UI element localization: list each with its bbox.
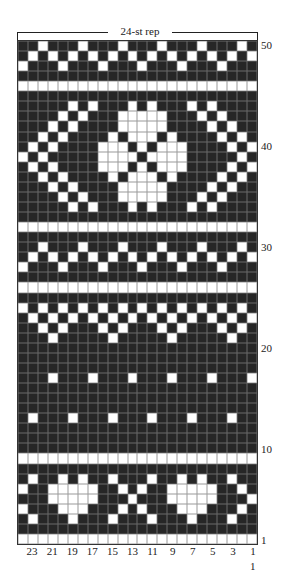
chart-cell	[128, 282, 138, 292]
chart-cell	[167, 514, 177, 524]
chart-cell	[38, 232, 48, 242]
chart-cell	[128, 202, 138, 212]
chart-cell	[88, 514, 98, 524]
chart-cell	[237, 504, 247, 514]
chart-cell	[137, 282, 147, 292]
chart-cell	[58, 172, 68, 182]
chart-cell	[88, 212, 98, 222]
chart-cell	[217, 81, 227, 91]
chart-cell	[18, 303, 28, 313]
knitting-chart: 24-st rep 50403020101 232119171513119753…	[0, 0, 286, 588]
chart-cell	[98, 514, 108, 524]
chart-cell	[118, 162, 128, 172]
chart-cell	[88, 132, 98, 142]
chart-cell	[207, 423, 217, 433]
chart-cell	[227, 423, 237, 433]
chart-cell	[237, 443, 247, 453]
chart-cell	[68, 524, 78, 534]
chart-cell	[177, 182, 187, 192]
chart-cell	[88, 152, 98, 162]
chart-cell	[18, 132, 28, 142]
chart-cell	[88, 303, 98, 313]
chart-cell	[68, 152, 78, 162]
chart-cell	[217, 514, 227, 524]
chart-cell	[128, 433, 138, 443]
chart-cell	[88, 41, 98, 51]
chart-cell	[98, 142, 108, 152]
chart-cell	[187, 343, 197, 353]
chart-cell	[197, 293, 207, 303]
chart-cell	[58, 51, 68, 61]
chart-cell	[187, 413, 197, 423]
chart-cell	[98, 192, 108, 202]
chart-cell	[58, 413, 68, 423]
chart-cell	[78, 71, 88, 81]
chart-cell	[157, 162, 167, 172]
chart-cell	[78, 464, 88, 474]
chart-cell	[157, 252, 167, 262]
chart-cell	[68, 443, 78, 453]
chart-cell	[167, 293, 177, 303]
chart-cell	[18, 41, 28, 51]
chart-cell	[108, 333, 118, 343]
chart-cell	[28, 453, 38, 463]
chart-cell	[137, 182, 147, 192]
chart-cell	[137, 71, 147, 81]
chart-cell	[58, 423, 68, 433]
chart-cell	[48, 61, 58, 71]
chart-cell	[147, 413, 157, 423]
chart-cell	[157, 423, 167, 433]
chart-cell	[118, 41, 128, 51]
chart-cell	[38, 51, 48, 61]
chart-cell	[227, 413, 237, 423]
chart-cell	[237, 272, 247, 282]
chart-cell	[147, 172, 157, 182]
chart-cell	[128, 242, 138, 252]
chart-cell	[187, 172, 197, 182]
chart-cell	[237, 514, 247, 524]
chart-cell	[98, 111, 108, 121]
chart-cell	[187, 91, 197, 101]
chart-cell	[108, 363, 118, 373]
chart-cell	[68, 484, 78, 494]
chart-cell	[227, 494, 237, 504]
chart-cell	[247, 61, 257, 71]
chart-cell	[137, 162, 147, 172]
chart-cell	[237, 293, 247, 303]
chart-cell	[88, 101, 98, 111]
chart-cell	[88, 121, 98, 131]
chart-cell	[167, 71, 177, 81]
chart-cell	[137, 514, 147, 524]
chart-cell	[48, 242, 58, 252]
chart-cell	[227, 524, 237, 534]
chart-cell	[137, 172, 147, 182]
chart-cell	[68, 101, 78, 111]
chart-cell	[137, 323, 147, 333]
chart-cell	[187, 222, 197, 232]
chart-cell	[18, 202, 28, 212]
chart-cell	[38, 353, 48, 363]
chart-cell	[197, 383, 207, 393]
chart-cell	[177, 101, 187, 111]
chart-cell	[118, 71, 128, 81]
chart-cell	[197, 474, 207, 484]
chart-cell	[38, 524, 48, 534]
chart-cell	[58, 142, 68, 152]
chart-cell	[88, 282, 98, 292]
chart-cell	[108, 252, 118, 262]
chart-cell	[108, 162, 118, 172]
chart-cell	[68, 71, 78, 81]
chart-cell	[137, 142, 147, 152]
chart-cell	[78, 313, 88, 323]
chart-cell	[128, 41, 138, 51]
chart-cell	[108, 443, 118, 453]
chart-cell	[128, 393, 138, 403]
chart-cell	[187, 393, 197, 403]
chart-cell	[207, 262, 217, 272]
chart-cell	[118, 182, 128, 192]
chart-cell	[177, 413, 187, 423]
chart-cell	[217, 101, 227, 111]
chart-cell	[207, 453, 217, 463]
chart-cell	[38, 293, 48, 303]
chart-cell	[18, 504, 28, 514]
